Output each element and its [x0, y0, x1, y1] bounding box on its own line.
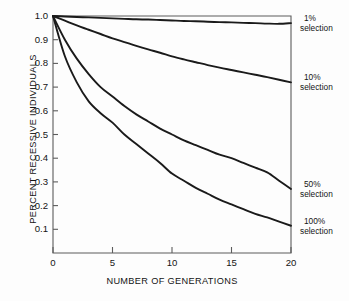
series-line-1pct: [53, 16, 291, 24]
series-label-percent: 10%: [304, 72, 333, 82]
x-tick-label: 10: [160, 258, 184, 268]
x-tick-label: 5: [101, 258, 125, 268]
y-tick-label: 0.8: [22, 58, 48, 68]
series-line-10pct: [53, 16, 291, 82]
chart-plot-area: [0, 0, 349, 301]
y-tick-label: 0.2: [22, 201, 48, 211]
series-label-selection: selection: [300, 189, 333, 199]
x-axis-title: NUMBER OF GENERATIONS: [53, 276, 291, 286]
y-tick-label: 0.5: [22, 130, 48, 140]
series-label: 100%selection: [300, 216, 333, 236]
series-label: 10%selection: [300, 72, 333, 92]
x-tick-label: 20: [279, 258, 303, 268]
series-label: 50%selection: [300, 179, 333, 199]
chart-figure: PERCENT RECESSIVE INDIVIDUALS NUMBER OF …: [0, 0, 349, 301]
x-tick-label: 0: [41, 258, 65, 268]
y-tick-label: 0.3: [22, 177, 48, 187]
y-tick-label: 0.6: [22, 106, 48, 116]
series-label-selection: selection: [300, 82, 333, 92]
series-label: 1%selection: [300, 13, 333, 33]
series-label-percent: 100%: [304, 216, 333, 226]
y-tick-label: 1.0: [22, 11, 48, 21]
series-label-percent: 1%: [304, 13, 333, 23]
series-label-selection: selection: [300, 23, 333, 33]
series-line-100pct: [53, 16, 291, 226]
x-tick-label: 15: [220, 258, 244, 268]
y-tick-label: 0.4: [22, 153, 48, 163]
series-label-percent: 50%: [304, 179, 333, 189]
y-tick-label: 0.1: [22, 224, 48, 234]
y-tick-label: 0.9: [22, 35, 48, 45]
series-label-selection: selection: [300, 226, 333, 236]
y-tick-label: 0.7: [22, 82, 48, 92]
